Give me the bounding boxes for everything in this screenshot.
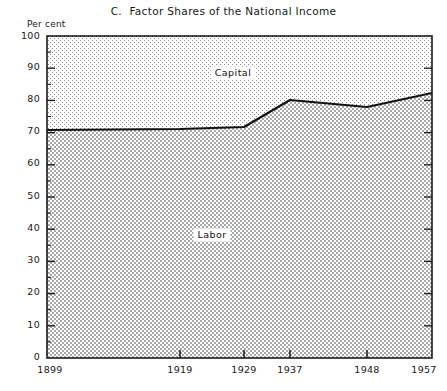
area-labor: [47, 93, 432, 358]
area-label-capital: Capital: [211, 67, 255, 80]
chart-figure: C. Factor Shares of the National Income …: [0, 0, 447, 391]
plot-canvas: [0, 0, 447, 391]
area-label-labor: Labor: [193, 229, 230, 242]
